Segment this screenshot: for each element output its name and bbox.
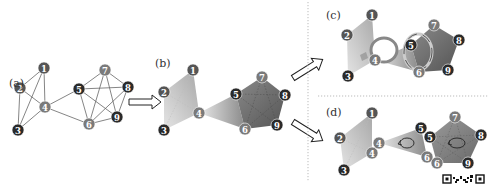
svg-text:4: 4: [369, 149, 375, 159]
node-1: 1: [187, 64, 199, 76]
node-7: 7: [428, 19, 440, 31]
node-8: 8: [279, 89, 291, 101]
svg-text:5: 5: [233, 90, 239, 100]
node-5: 5: [73, 83, 85, 95]
svg-text:3: 3: [341, 166, 347, 176]
svg-text:6: 6: [424, 153, 430, 163]
svg-text:1: 1: [41, 64, 47, 74]
svg-text:2: 2: [337, 134, 343, 144]
node-5: 5: [424, 131, 436, 143]
node-5: 5: [405, 39, 417, 51]
panel-label-b: (b): [155, 57, 171, 70]
node-3: 3: [342, 70, 354, 82]
complex-c: [347, 15, 459, 76]
svg-text:2: 2: [161, 88, 167, 98]
svg-text:4: 4: [376, 139, 382, 149]
node-4: 4: [39, 101, 51, 113]
graph-a-edges: [18, 68, 128, 130]
node-6: 6: [239, 123, 251, 135]
node-1: 1: [366, 107, 378, 119]
node-9: 9: [442, 64, 454, 76]
node-1: 1: [38, 62, 50, 74]
node-3: 3: [12, 124, 24, 136]
node-4: 4: [193, 107, 205, 119]
node-7: 7: [99, 64, 111, 76]
arrow-a-to-b: [129, 95, 161, 109]
svg-text:8: 8: [456, 36, 462, 46]
node-5: 5: [230, 88, 242, 100]
node-8: 8: [122, 81, 134, 93]
node-2: 2: [158, 86, 170, 98]
svg-text:9: 9: [114, 113, 120, 123]
svg-text:5: 5: [427, 133, 433, 143]
node-6: 6: [413, 66, 425, 78]
node-5: 5: [415, 122, 427, 134]
svg-text:6: 6: [86, 120, 92, 130]
svg-text:1: 1: [369, 109, 375, 119]
svg-text:9: 9: [445, 66, 451, 76]
svg-text:5: 5: [418, 124, 424, 134]
panel-label-d: (d): [326, 106, 342, 119]
node-2: 2: [341, 29, 353, 41]
node-8: 8: [453, 34, 465, 46]
node-2: 2: [334, 132, 346, 144]
graph-a: [18, 68, 128, 130]
complex-d: [340, 113, 481, 170]
svg-text:4: 4: [42, 103, 48, 113]
node-9: 9: [462, 157, 474, 169]
svg-text:5: 5: [408, 41, 414, 51]
svg-text:8: 8: [125, 83, 131, 93]
node-6: 6: [83, 118, 95, 130]
node-1: 1: [366, 9, 378, 21]
svg-text:9: 9: [465, 159, 471, 169]
svg-text:5: 5: [76, 85, 82, 95]
node-7: 7: [256, 71, 268, 83]
svg-text:7: 7: [452, 113, 458, 123]
node-4: 4: [373, 137, 385, 149]
node-6: 6: [431, 157, 443, 169]
svg-text:8: 8: [478, 131, 484, 141]
node-7: 7: [449, 111, 461, 123]
node-9: 9: [271, 119, 283, 131]
panel-label-a: (a): [9, 77, 24, 90]
svg-text:1: 1: [190, 66, 196, 76]
node-3: 3: [338, 164, 350, 176]
node-9: 9: [111, 111, 123, 123]
svg-text:9: 9: [274, 121, 280, 131]
svg-text:7: 7: [259, 73, 265, 83]
svg-text:3: 3: [161, 126, 167, 136]
svg-text:3: 3: [345, 72, 351, 82]
node-4: 4: [369, 54, 381, 66]
node-3: 3: [158, 124, 170, 136]
svg-text:1: 1: [369, 11, 375, 21]
simplex-56789-c: [411, 25, 459, 72]
qr-code-icon: [443, 175, 484, 183]
diagram-canvas: 123456789 123456789 123456789 1234455667…: [0, 0, 492, 184]
simplex-1234: [164, 70, 199, 130]
svg-text:6: 6: [434, 159, 440, 169]
figure-simplicial-complex: 123456789 123456789 123456789 1234455667…: [0, 0, 492, 184]
node-4: 4: [366, 147, 378, 159]
svg-text:4: 4: [372, 56, 378, 66]
svg-text:7: 7: [102, 66, 108, 76]
svg-text:6: 6: [416, 68, 422, 78]
svg-text:3: 3: [15, 126, 21, 136]
panel-label-c: (c): [326, 9, 341, 22]
svg-text:2: 2: [344, 31, 350, 41]
svg-text:7: 7: [431, 21, 437, 31]
node-8: 8: [475, 129, 487, 141]
svg-text:8: 8: [282, 91, 288, 101]
svg-text:6: 6: [242, 125, 248, 135]
svg-text:4: 4: [196, 109, 202, 119]
